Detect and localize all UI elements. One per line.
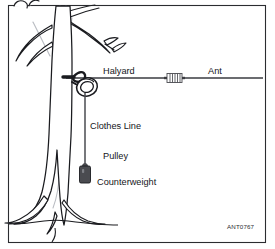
counterweight-icon bbox=[80, 163, 91, 183]
coil-insulator-icon bbox=[164, 74, 185, 83]
label-clothes-line-pulley-line2: Pulley bbox=[90, 151, 141, 161]
label-clothes-line-pulley: Clothes Line Pulley bbox=[90, 100, 141, 182]
label-counterweight: Counterweight bbox=[97, 177, 156, 187]
label-clothes-line-pulley-line1: Clothes Line bbox=[90, 121, 141, 131]
label-halyard: Halyard bbox=[103, 66, 135, 76]
figure-reference-code: ANT0767 bbox=[227, 224, 254, 231]
label-antenna: Ant bbox=[208, 66, 222, 76]
antenna-halyard-diagram: Halyard Ant Clothes Line Pulley Counterw… bbox=[0, 0, 275, 249]
